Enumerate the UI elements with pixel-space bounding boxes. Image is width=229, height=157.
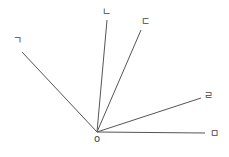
ray-2 bbox=[97, 30, 141, 132]
angle-diagram: ㄱㄴㄷㄹㅁo bbox=[0, 0, 229, 157]
ray-1 bbox=[97, 20, 107, 132]
diagram-canvas: ㄱㄴㄷㄹㅁo bbox=[0, 0, 229, 157]
ray-label-0: ㄱ bbox=[13, 35, 22, 46]
ray-label-1: ㄴ bbox=[102, 6, 111, 17]
ray-4 bbox=[97, 132, 205, 133]
ray-0 bbox=[22, 52, 97, 132]
ray-3 bbox=[97, 98, 201, 132]
origin-label: o bbox=[94, 133, 100, 144]
ray-label-3: ㄹ bbox=[204, 90, 213, 101]
ray-label-4: ㅁ bbox=[210, 128, 219, 139]
ray-label-2: ㄷ bbox=[141, 16, 150, 27]
